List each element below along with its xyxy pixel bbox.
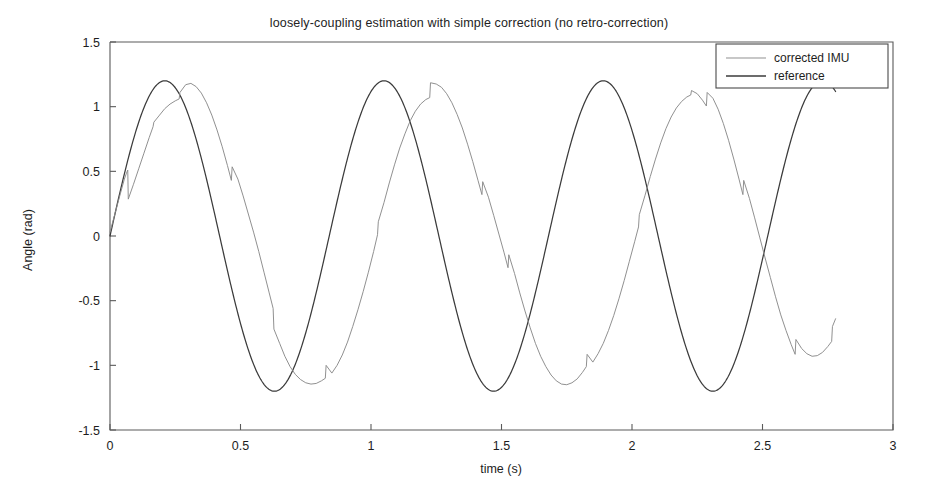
legend-label-corrected-imu: corrected IMU	[774, 51, 849, 65]
x-tick-label: 2.5	[754, 439, 771, 453]
axis-frame	[110, 42, 893, 430]
x-tick-label: 0	[107, 439, 114, 453]
x-tick-label: 1.5	[493, 439, 510, 453]
x-axis-ticks: 00.511.522.53	[107, 424, 897, 453]
x-axis-title: time (s)	[480, 462, 522, 476]
y-tick-label: 0	[93, 230, 100, 244]
y-tick-label: 0.5	[83, 165, 100, 179]
legend-label-reference: reference	[774, 69, 825, 83]
series-line-reference	[110, 81, 836, 391]
chart-title: loosely-coupling estimation with simple …	[270, 16, 668, 30]
legend[interactable]: corrected IMU reference	[716, 44, 888, 88]
y-axis-title: Angle (rad)	[21, 209, 35, 271]
x-tick-label: 2	[629, 439, 636, 453]
y-tick-label: -0.5	[78, 294, 100, 308]
x-tick-label: 0.5	[232, 439, 249, 453]
y-tick-label: -1.5	[78, 424, 100, 438]
y-tick-label: 1.5	[83, 36, 100, 50]
x-tick-label: 1	[368, 439, 375, 453]
figure-container: loosely-coupling estimation with simple …	[0, 0, 939, 483]
x-tick-label: 3	[890, 439, 897, 453]
series-layer	[110, 81, 836, 391]
chart-plot: loosely-coupling estimation with simple …	[0, 0, 939, 483]
y-tick-label: 1	[93, 100, 100, 114]
y-tick-label: -1	[89, 359, 100, 373]
